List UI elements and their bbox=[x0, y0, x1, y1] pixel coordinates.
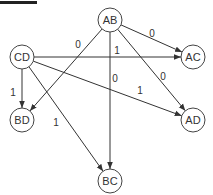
node-label: CD bbox=[14, 51, 30, 63]
edge-line bbox=[33, 61, 181, 116]
node-ac: AC bbox=[181, 45, 205, 69]
edge-label-ab-ac: 0 bbox=[149, 28, 155, 39]
edge-label-ab-bc: 0 bbox=[112, 73, 118, 84]
node-label: AB bbox=[103, 14, 118, 26]
node-bc: BC bbox=[98, 169, 122, 193]
edge-label-ab-bd: 0 bbox=[75, 39, 81, 50]
node-cd: CD bbox=[10, 45, 34, 69]
edge-cd-to-ad bbox=[33, 61, 181, 116]
edge-label-cd-bd: 1 bbox=[10, 87, 16, 98]
edge-ab-to-bd bbox=[30, 29, 102, 111]
edge-label-cd-bc: 1 bbox=[53, 117, 59, 128]
edge-line bbox=[118, 29, 186, 111]
node-ad: AD bbox=[181, 108, 205, 132]
edge-label-cd-ad: 1 bbox=[137, 85, 143, 96]
node-label: AC bbox=[185, 51, 200, 63]
node-label: AD bbox=[185, 114, 200, 126]
graph-canvas: 00001111 ABCDACBDADBC bbox=[0, 0, 213, 195]
edge-line bbox=[30, 29, 102, 111]
node-bd: BD bbox=[10, 108, 34, 132]
edge-label-ab-ad: 0 bbox=[160, 71, 166, 82]
edge-label-cd-ac: 1 bbox=[114, 45, 120, 56]
node-ab: AB bbox=[98, 8, 122, 32]
edge-ab-to-ad bbox=[118, 29, 186, 111]
node-label: BD bbox=[14, 114, 29, 126]
node-label: BC bbox=[102, 175, 117, 187]
